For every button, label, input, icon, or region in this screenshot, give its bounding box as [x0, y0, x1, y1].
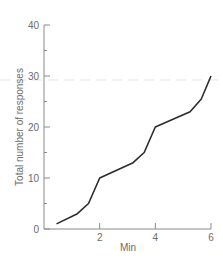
- y-tick-label: 0: [33, 224, 39, 235]
- x-tick-label: 4: [153, 232, 159, 243]
- y-tick-label: 30: [28, 71, 40, 82]
- y-tick-label: 20: [28, 122, 40, 133]
- y-tick-label: 40: [28, 20, 40, 31]
- x-axis-label: Min: [120, 242, 136, 253]
- cumulative-response-chart: 010203040246 Min Total number of respons…: [0, 0, 223, 265]
- axis-lines: [44, 25, 211, 229]
- y-axis-label: Total number of responses: [14, 68, 25, 186]
- axes: [44, 25, 211, 229]
- ticks: 010203040246: [28, 20, 214, 244]
- x-tick-label: 6: [208, 232, 214, 243]
- data-series: [57, 76, 212, 224]
- cumulative-response-line: [57, 76, 212, 224]
- y-tick-label: 10: [28, 173, 40, 184]
- x-tick-label: 2: [97, 232, 103, 243]
